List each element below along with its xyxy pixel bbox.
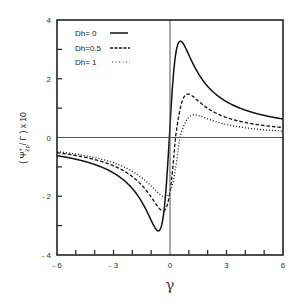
y-tick-label: 4 — [47, 16, 52, 25]
chart: - 6- 3036420- 2- 4 Dh= 0 Dh=0.5 Dh= 1 ( … — [0, 0, 299, 307]
x-tick-label: 0 — [168, 261, 173, 270]
x-axis-label: γ — [166, 276, 175, 294]
legend: Dh= 0 Dh=0.5 Dh= 1 — [75, 29, 130, 67]
y-tick-label: - 2 — [42, 192, 52, 201]
y-axis-label: ( Ψ+2p/ Γ ) x 10 — [17, 112, 30, 164]
x-tick-label: - 6 — [52, 261, 62, 270]
y-tick-label: 0 — [47, 134, 52, 143]
x-tick-label: 6 — [281, 261, 286, 270]
x-tick-label: 3 — [224, 261, 229, 270]
tick-labels: - 6- 3036420- 2- 4 — [42, 16, 286, 270]
axis-ticks — [57, 49, 264, 255]
legend-label-dh05: Dh=0.5 — [75, 44, 102, 53]
legend-label-dh1: Dh= 1 — [75, 58, 97, 67]
x-tick-label: - 3 — [109, 261, 119, 270]
y-tick-label: - 4 — [42, 251, 52, 260]
y-tick-label: 2 — [47, 75, 52, 84]
legend-label-dh0: Dh= 0 — [75, 29, 97, 38]
